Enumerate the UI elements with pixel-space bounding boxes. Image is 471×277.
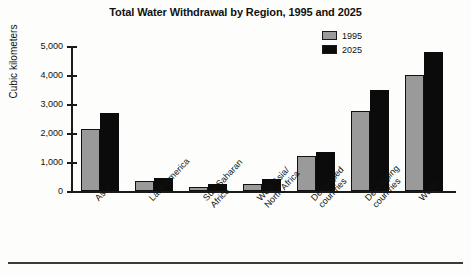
bottom-divider xyxy=(8,262,463,264)
bar xyxy=(100,113,119,191)
y-tick-label-2000: 2,000 xyxy=(17,129,63,138)
bar-group xyxy=(399,46,453,191)
bar xyxy=(81,129,100,191)
y-tick-label-4000: 4,000 xyxy=(17,71,63,80)
bar xyxy=(424,52,443,191)
legend-swatch-1995-icon xyxy=(322,31,337,40)
y-tick-label-3000: 3,000 xyxy=(17,100,63,109)
y-tick-mark-0 xyxy=(67,191,77,193)
chart-title: Total Water Withdrawal by Region, 1995 a… xyxy=(0,6,471,18)
bar xyxy=(135,181,154,191)
bar xyxy=(351,111,370,191)
y-tick-label-5000: 5,000 xyxy=(17,42,63,51)
x-axis-category-labels: AsiaLatin AmericaSub-SaharanAfricaWest A… xyxy=(71,196,471,266)
chart-figure: Total Water Withdrawal by Region, 1995 a… xyxy=(0,0,471,277)
bar-group xyxy=(75,46,129,191)
y-tick-label-0: 0 xyxy=(17,187,63,196)
legend-item-1995: 1995 xyxy=(322,29,392,42)
legend-label-1995: 1995 xyxy=(342,31,362,41)
bar xyxy=(405,75,424,191)
y-tick-label-1000: 1,000 xyxy=(17,158,63,167)
